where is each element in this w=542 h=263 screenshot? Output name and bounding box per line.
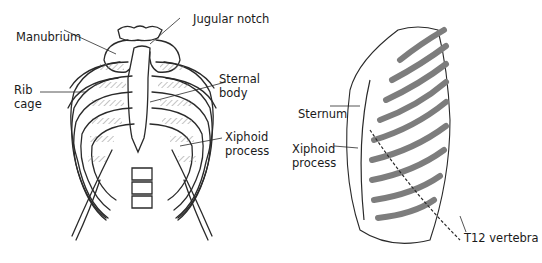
label-sternal-body-line2: body xyxy=(219,87,247,100)
rib-cage-figure: Manubrium Jugular notch Rib cage Sternal… xyxy=(0,0,542,263)
anterior-rib-cage-drawing xyxy=(0,0,542,263)
label-manubrium: Manubrium xyxy=(16,31,81,44)
label-sternal-body-line1: Sternal xyxy=(219,73,260,86)
label-lateral-xiphoid-line1: Xiphoid xyxy=(292,143,335,156)
label-jugular-notch: Jugular notch xyxy=(193,13,269,26)
label-lateral-xiphoid-line2: process xyxy=(292,157,336,170)
label-xiphoid-process-line2: process xyxy=(225,145,269,158)
label-rib-cage-line2: cage xyxy=(14,98,42,111)
label-xiphoid-process-line1: Xiphoid xyxy=(225,131,268,144)
label-sternum: Sternum xyxy=(298,108,347,121)
label-t12-vertebra: T12 vertebra xyxy=(464,232,539,245)
label-rib-cage-line1: Rib xyxy=(14,84,33,97)
